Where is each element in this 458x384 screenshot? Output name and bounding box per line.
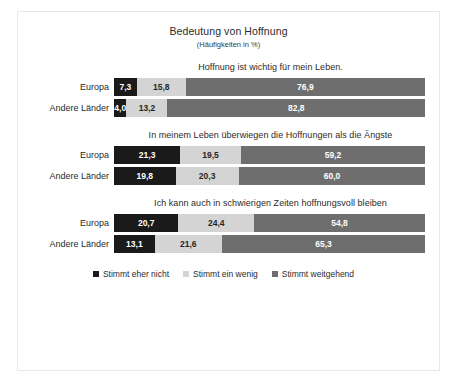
legend-item-stimmt-weitgehend: Stimmt weitgehend: [272, 269, 354, 279]
chart-panel: In meinem Leben überwiegen die Hoffnunge…: [18, 130, 439, 185]
chart-row: Andere Länder 19,8 20,3 60,0: [18, 167, 439, 185]
stacked-bar: 21,3 19,5 59,2: [114, 146, 425, 164]
legend-label: Stimmt ein wenig: [193, 269, 258, 279]
bar-segment-stimmt-ein-wenig: 13,2: [126, 99, 167, 117]
bar-segment-stimmt-eher-nicht: 19,8: [114, 167, 176, 185]
stacked-bar: 7,3 15,8 76,9: [114, 78, 425, 96]
row-category-label: Europa: [18, 218, 114, 228]
panel-title: Hoffnung ist wichtig für mein Leben.: [18, 62, 439, 72]
bar-segment-stimmt-weitgehend: 60,0: [239, 167, 425, 185]
panel-title: In meinem Leben überwiegen die Hoffnunge…: [18, 130, 439, 140]
bar-segment-stimmt-ein-wenig: 21,6: [155, 235, 222, 253]
legend-swatch-icon: [93, 271, 99, 277]
bar-segment-stimmt-ein-wenig: 24,4: [178, 214, 254, 232]
chart-row: Europa 20,7 24,4 54,8: [18, 214, 439, 232]
bar-segment-stimmt-eher-nicht: 7,3: [114, 78, 137, 96]
row-category-label: Andere Länder: [18, 239, 114, 249]
bar-segment-stimmt-weitgehend: 76,9: [186, 78, 425, 96]
chart-panel: Hoffnung ist wichtig für mein Leben. Eur…: [18, 62, 439, 117]
legend-item-stimmt-ein-wenig: Stimmt ein wenig: [183, 269, 258, 279]
panel-title: Ich kann auch in schwierigen Zeiten hoff…: [18, 198, 439, 208]
chart-row: Andere Länder 13,1 21,6 65,3: [18, 235, 439, 253]
row-category-label: Andere Länder: [18, 103, 114, 113]
bar-segment-stimmt-eher-nicht: 4,0: [114, 99, 126, 117]
stacked-bar: 4,0 13,2 82,8: [114, 99, 425, 117]
bar-segment-stimmt-weitgehend: 59,2: [241, 146, 425, 164]
stacked-bar: 13,1 21,6 65,3: [114, 235, 425, 253]
bar-segment-stimmt-ein-wenig: 19,5: [180, 146, 241, 164]
bar-segment-stimmt-ein-wenig: 20,3: [176, 167, 239, 185]
legend-label: Stimmt weitgehend: [282, 269, 354, 279]
chart-row: Europa 21,3 19,5 59,2: [18, 146, 439, 164]
row-category-label: Europa: [18, 150, 114, 160]
bar-segment-stimmt-ein-wenig: 15,8: [137, 78, 186, 96]
legend-swatch-icon: [183, 271, 189, 277]
row-category-label: Andere Länder: [18, 171, 114, 181]
stacked-bar: 20,7 24,4 54,8: [114, 214, 425, 232]
chart-subtitle: (Häufigkeiten in %): [18, 40, 439, 49]
row-category-label: Europa: [18, 82, 114, 92]
bar-segment-stimmt-weitgehend: 54,8: [254, 214, 424, 232]
bar-segment-stimmt-eher-nicht: 21,3: [114, 146, 180, 164]
chart-row: Andere Länder 4,0 13,2 82,8: [18, 99, 439, 117]
stacked-bar: 19,8 20,3 60,0: [114, 167, 425, 185]
chart-frame: Bedeutung von Hoffnung (Häufigkeiten in …: [17, 11, 440, 371]
bar-segment-stimmt-weitgehend: 82,8: [167, 99, 425, 117]
legend-label: Stimmt eher nicht: [103, 269, 169, 279]
chart-legend: Stimmt eher nicht Stimmt ein wenig Stimm…: [18, 269, 439, 279]
chart-panel: Ich kann auch in schwierigen Zeiten hoff…: [18, 198, 439, 253]
legend-swatch-icon: [272, 271, 278, 277]
bar-segment-stimmt-eher-nicht: 13,1: [114, 235, 155, 253]
legend-item-stimmt-eher-nicht: Stimmt eher nicht: [93, 269, 169, 279]
chart-row: Europa 7,3 15,8 76,9: [18, 78, 439, 96]
bar-segment-stimmt-weitgehend: 65,3: [222, 235, 425, 253]
chart-title: Bedeutung von Hoffnung: [18, 25, 439, 37]
bar-segment-stimmt-eher-nicht: 20,7: [114, 214, 178, 232]
